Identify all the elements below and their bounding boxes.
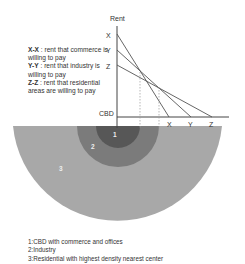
cbd-label: CBD	[99, 110, 114, 117]
legend-key: Z-Z	[28, 79, 38, 86]
legend-key: X-X	[28, 46, 39, 53]
curve-legend: X-X : rent that commerce is willing to p…	[28, 46, 110, 95]
legend-item-residential: Z-Z : rent that residential areas are wi…	[28, 79, 110, 95]
zone-legend-item: 1:CBD with commerce and offices	[28, 238, 163, 246]
legend-item-industry: Y-Y : rent that industry is willing to p…	[28, 62, 110, 78]
industry-bid-rent-line	[117, 50, 191, 117]
legend-key: Y-Y	[28, 62, 39, 69]
legend-text: : rent that residential areas are willin…	[28, 79, 100, 94]
x-tick-z: Z	[209, 121, 214, 128]
zone-2-label: 2	[91, 143, 95, 150]
y-tick-x: X	[106, 32, 111, 39]
zone-1-label: 1	[113, 131, 117, 138]
zone-legend-item: 3:Residential with highest density neare…	[28, 255, 163, 263]
bid-rent-diagram: 1 2 3 Rent CBD X Y Z X Y Z	[0, 0, 245, 264]
zone-3-label: 3	[59, 165, 63, 172]
zone-legend-item: 2:Industry	[28, 246, 163, 254]
legend-text: : rent that commerce is willing to pay	[28, 46, 108, 61]
zone-legend: 1:CBD with commerce and offices 2:Indust…	[28, 238, 163, 263]
legend-text: : rent that industry is willing to pay	[28, 62, 100, 77]
commerce-bid-rent-line	[117, 34, 169, 117]
x-tick-y: Y	[188, 121, 193, 128]
x-tick-x: X	[167, 121, 172, 128]
legend-item-commerce: X-X : rent that commerce is willing to p…	[28, 46, 110, 62]
rent-axis-label: Rent	[110, 15, 125, 22]
